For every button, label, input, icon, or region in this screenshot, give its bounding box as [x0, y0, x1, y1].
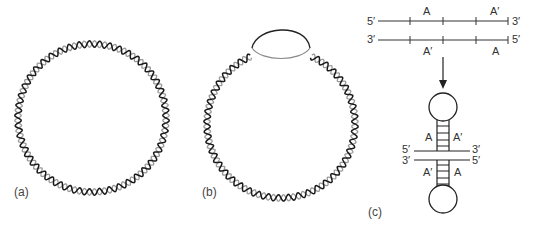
bubble-strand-bottom — [252, 48, 310, 59]
segment-A-top: A — [423, 5, 431, 17]
cruciform-upper-left-A: A — [425, 131, 433, 143]
panel-b-bubble-dna: (b) — [202, 30, 358, 201]
segment-Aprime-bottom: A′ — [423, 45, 432, 57]
top-strand-5prime: 5′ — [367, 15, 375, 27]
bubble-strand-top — [252, 30, 310, 48]
bottom-strand-3prime: 3′ — [367, 33, 375, 45]
bottom-strand-5prime: 5′ — [512, 33, 520, 45]
panel-c-label: (c) — [368, 205, 382, 219]
mid-bottom-3prime: 3′ — [402, 154, 410, 166]
segment-Aprime-top: A′ — [490, 5, 499, 17]
arrow-down-icon — [439, 80, 447, 89]
double-helix-circle — [15, 41, 169, 195]
segment-A-bottom: A — [492, 45, 500, 57]
panel-a-label: (a) — [14, 185, 29, 199]
mid-bottom-5prime: 5′ — [472, 154, 480, 166]
top-strand-3prime: 3′ — [512, 15, 520, 27]
dna-topology-figure: (a) (b) 5′ 3′ A A′ 3′ 5′ A′ A — [0, 0, 538, 228]
hairpin-loop-bottom — [429, 185, 457, 213]
cruciform-upper-right-Aprime: A′ — [453, 131, 462, 143]
panel-c-inverted-repeat: 5′ 3′ A A′ 3′ 5′ A′ A A A′ 5′ 3′ — [367, 5, 520, 219]
double-helix-circle-with-gap — [204, 54, 358, 201]
panel-a-circular-dna: (a) — [14, 41, 169, 199]
cruciform-lower-left-Aprime: A′ — [423, 166, 432, 178]
panel-b-label: (b) — [202, 185, 217, 199]
hairpin-loop-top — [429, 93, 457, 121]
cruciform-lower-right-A: A — [454, 166, 462, 178]
